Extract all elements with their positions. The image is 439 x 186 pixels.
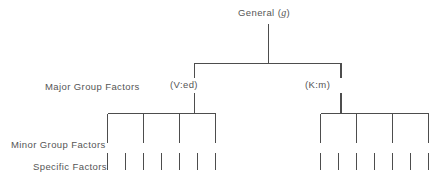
node-general-suffix: ) [287, 7, 291, 18]
node-major-factor-ved: (V:ed) [170, 80, 198, 90]
diagram-lines-layer [0, 0, 439, 186]
node-general: General (g) [238, 8, 290, 18]
node-general-prefix: General ( [238, 7, 281, 18]
row-label-minor-group-factors: Minor Group Factors [11, 140, 106, 150]
node-major-factor-km: (K:m) [305, 80, 330, 90]
row-label-major-group-factors: Major Group Factors [45, 82, 140, 92]
hierarchical-factor-diagram: General (g) (V:ed) (K:m) Major Group Fac… [0, 0, 439, 186]
row-label-specific-factors: Specific Factors [33, 162, 107, 172]
